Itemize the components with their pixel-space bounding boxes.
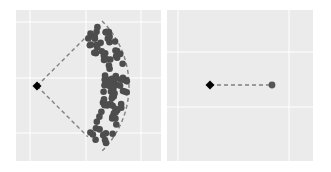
data-point xyxy=(119,60,126,67)
data-point xyxy=(103,130,110,137)
data-point xyxy=(98,48,105,55)
data-point xyxy=(106,62,113,69)
data-point xyxy=(101,76,108,83)
data-point xyxy=(93,28,100,35)
data-point xyxy=(123,89,130,96)
data-point xyxy=(91,34,98,41)
data-point xyxy=(111,83,118,90)
diamond-marker-icon xyxy=(206,81,215,90)
left-plot-panel xyxy=(16,10,161,161)
data-point xyxy=(85,35,92,42)
data-point xyxy=(110,93,117,100)
data-point xyxy=(118,101,125,108)
data-point xyxy=(101,82,108,89)
right-plot-canvas xyxy=(167,10,313,161)
data-point xyxy=(124,78,131,85)
data-point xyxy=(96,126,103,133)
dashed-ray-lower xyxy=(37,86,88,137)
data-point xyxy=(91,49,98,56)
data-point xyxy=(109,130,116,137)
data-point xyxy=(96,113,103,120)
right-plot-panel xyxy=(167,10,313,161)
data-point xyxy=(92,136,99,143)
data-point xyxy=(112,47,119,54)
data-point xyxy=(109,76,116,83)
data-point xyxy=(117,82,124,89)
data-point xyxy=(101,102,108,109)
data-point xyxy=(107,101,114,108)
data-point xyxy=(106,33,113,40)
data-point xyxy=(88,41,95,48)
data-point xyxy=(113,121,120,128)
data-point xyxy=(269,82,276,89)
data-point xyxy=(112,115,119,122)
left-plot-canvas xyxy=(16,10,161,161)
data-point xyxy=(100,88,107,95)
data-point xyxy=(104,56,111,63)
diamond-marker-icon xyxy=(33,82,42,91)
